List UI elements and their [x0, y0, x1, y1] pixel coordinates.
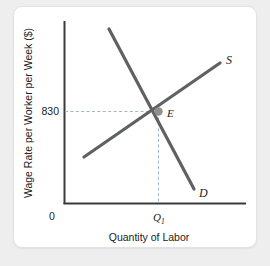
- demand-curve: [109, 29, 194, 189]
- x-axis-tick-q1-subscript: 1: [161, 217, 165, 226]
- origin-label: 0: [49, 210, 55, 222]
- figure-card: 830 0 Q1 E S D Wage Rate per Worker per …: [13, 6, 257, 248]
- x-axis-title: Quantity of Labor: [109, 231, 190, 243]
- demand-curve-label: D: [198, 186, 208, 200]
- supply-curve-label: S: [226, 53, 232, 67]
- supply-demand-chart: 830 0 Q1 E S D Wage Rate per Worker per …: [14, 7, 257, 248]
- y-axis-tick-830: 830: [41, 105, 59, 117]
- equilibrium-label: E: [166, 107, 174, 119]
- equilibrium-point-marker: [154, 107, 162, 115]
- x-axis-tick-q1: Q1: [153, 211, 165, 226]
- y-axis-title: Wage Rate per Worker per Week ($): [22, 28, 34, 198]
- x-axis-tick-q1-base: Q: [153, 211, 161, 223]
